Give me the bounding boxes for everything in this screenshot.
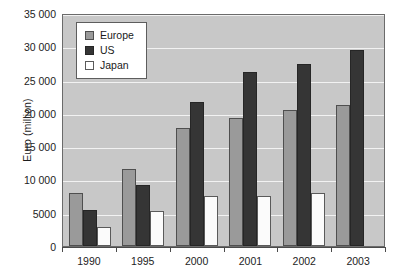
x-tick-mark (170, 247, 171, 252)
bar-japan (204, 196, 218, 246)
x-tick-mark (224, 247, 225, 252)
x-tick-label: 2003 (331, 255, 385, 267)
x-tick-label: 1995 (116, 255, 170, 267)
bar-us (190, 102, 204, 246)
bar-us (243, 72, 257, 246)
bar-us (83, 210, 97, 246)
bar-group (224, 15, 278, 246)
y-tick-label: 35 000 (8, 9, 56, 19)
y-tick-label: 25 000 (8, 76, 56, 86)
bar-us (136, 185, 150, 246)
bar-europe (229, 118, 243, 246)
legend-label: Japan (100, 60, 129, 71)
bar-japan (97, 227, 111, 246)
x-tick-mark (116, 247, 117, 252)
y-tick-label: 10 000 (8, 175, 56, 185)
bar-europe (176, 128, 190, 246)
legend: EuropeUSJapan (76, 22, 147, 79)
bar-group (170, 15, 224, 246)
legend-swatch-us-icon (85, 46, 94, 55)
y-tick-label: 15 000 (8, 142, 56, 152)
legend-swatch-europe-icon (85, 31, 94, 40)
y-tick-label: 30 000 (8, 42, 56, 52)
y-tick-label: 0 (8, 242, 56, 252)
legend-swatch-japan-icon (85, 61, 94, 70)
y-tick-label: 20 000 (8, 109, 56, 119)
bar-chart: Euro (million) 0500010 00015 00020 00025… (0, 0, 396, 276)
bar-group (277, 15, 331, 246)
bar-japan (257, 196, 271, 246)
x-axis: 199019952000200120022003 (62, 247, 385, 276)
bar-europe (122, 169, 136, 246)
bar-europe (283, 110, 297, 246)
bar-europe (336, 105, 350, 246)
legend-item-europe: Europe (85, 28, 134, 43)
y-axis-ticks: 0500010 00015 00020 00025 00030 00035 00… (6, 0, 56, 276)
bar-us (350, 50, 364, 246)
bar-group (331, 15, 385, 246)
bar-us (297, 64, 311, 246)
x-tick-mark (385, 247, 386, 252)
bar-japan (311, 193, 325, 246)
legend-label: US (100, 45, 115, 56)
x-tick-mark (277, 247, 278, 252)
x-tick-label: 2002 (277, 255, 331, 267)
x-tick-label: 1990 (62, 255, 116, 267)
bar-europe (69, 193, 83, 246)
legend-item-us: US (85, 43, 134, 58)
x-tick-label: 2000 (170, 255, 224, 267)
legend-label: Europe (100, 30, 134, 41)
x-tick-mark (331, 247, 332, 252)
x-tick-mark (62, 247, 63, 252)
y-tick-label: 5000 (8, 209, 56, 219)
x-tick-label: 2001 (223, 255, 277, 267)
legend-item-japan: Japan (85, 58, 134, 73)
bar-japan (150, 211, 164, 246)
x-axis-labels: 199019952000200120022003 (62, 255, 385, 267)
